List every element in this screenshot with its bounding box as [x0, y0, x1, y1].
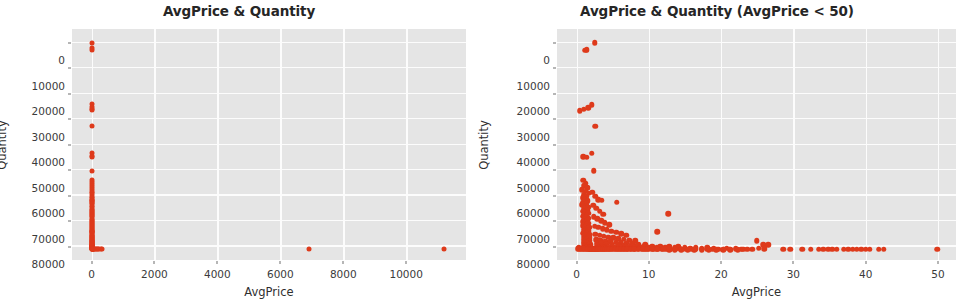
- x-tick-mark: [280, 261, 281, 264]
- scatter-point: [749, 247, 755, 253]
- x-tick-label: 50: [931, 268, 944, 280]
- scatter-point: [679, 247, 685, 253]
- y-tick-label: 70000: [517, 233, 550, 245]
- y-tick-label: 10000: [517, 80, 550, 92]
- scatter-point: [661, 247, 667, 253]
- gridline-vertical: [217, 29, 218, 260]
- scatter-point: [756, 245, 762, 251]
- y-tick-mark: [553, 170, 556, 171]
- scatter-point: [721, 247, 727, 253]
- scatter-point: [699, 247, 705, 253]
- scatter-point: [735, 247, 741, 253]
- y-tick-label: 60000: [32, 207, 65, 219]
- x-tick-label: 8000: [330, 268, 357, 280]
- x-tick-mark: [721, 261, 722, 264]
- scatter-point: [441, 246, 446, 251]
- y-tick-label: 30000: [517, 131, 550, 143]
- gridline-vertical: [938, 29, 939, 260]
- x-tick-label: 30: [787, 268, 800, 280]
- x-tick-mark: [648, 261, 649, 264]
- x-tick-label: 6000: [267, 268, 294, 280]
- gridline-vertical: [649, 29, 650, 260]
- scatter-point: [762, 246, 768, 252]
- scatter-point: [306, 246, 311, 251]
- x-tick-mark: [937, 261, 938, 264]
- gridline-vertical: [154, 29, 155, 260]
- scatter-point: [655, 229, 661, 235]
- y-tick-label: 0: [58, 54, 65, 66]
- x-tick-label: 10: [642, 268, 655, 280]
- y-tick-mark: [68, 93, 71, 94]
- scatter-point: [592, 40, 598, 46]
- gridline-vertical: [793, 29, 794, 260]
- scatter-point: [89, 104, 94, 109]
- scatter-point: [614, 199, 620, 205]
- chart-title-left: AvgPrice & Quantity: [0, 3, 478, 19]
- x-tick-mark: [576, 261, 577, 264]
- x-tick-label: 4000: [204, 268, 231, 280]
- scatter-point: [799, 247, 805, 253]
- scatter-point: [834, 247, 840, 253]
- x-tick-mark: [343, 261, 344, 264]
- scatter-point: [754, 238, 760, 244]
- x-tick-mark: [406, 261, 407, 264]
- y-tick-label: 30000: [32, 131, 65, 143]
- y-tick-label: 50000: [517, 182, 550, 194]
- y-tick-mark: [553, 93, 556, 94]
- x-tick-label: 20: [714, 268, 727, 280]
- scatter-point: [881, 247, 887, 253]
- scatter-point: [685, 247, 691, 253]
- x-tick-mark: [154, 261, 155, 264]
- plot-area-left: [72, 29, 466, 260]
- y-tick-mark: [68, 221, 71, 222]
- chart-title-right: AvgPrice & Quantity (AvgPrice < 50): [478, 3, 956, 19]
- y-tick-label: 50000: [32, 182, 65, 194]
- gridline-vertical: [406, 29, 407, 260]
- scatter-point: [867, 247, 873, 253]
- y-tick-mark: [553, 195, 556, 196]
- y-tick-label: 60000: [517, 207, 550, 219]
- x-tick-mark: [793, 261, 794, 264]
- x-tick-mark: [865, 261, 866, 264]
- y-tick-mark: [68, 68, 71, 69]
- gridline-vertical: [721, 29, 722, 260]
- y-tick-label: 20000: [517, 105, 550, 117]
- plot-background-left: [72, 29, 466, 260]
- plot-background-right: [557, 29, 956, 260]
- gridline-vertical: [280, 29, 281, 260]
- gridline-horizontal: [557, 93, 956, 94]
- y-tick-mark: [68, 119, 71, 120]
- scatter-point: [591, 168, 597, 174]
- scatter-point: [593, 124, 599, 130]
- x-tick-mark: [91, 261, 92, 264]
- y-tick-mark: [553, 221, 556, 222]
- x-axis-label-right: AvgPrice: [557, 285, 956, 299]
- gridline-vertical: [866, 29, 867, 260]
- scatter-point: [672, 247, 678, 253]
- scatter-point: [584, 47, 590, 53]
- scatter-point: [692, 247, 698, 253]
- x-tick-label: 40: [859, 268, 872, 280]
- scatter-point: [788, 247, 794, 253]
- gridline-horizontal: [557, 144, 956, 145]
- gridline-horizontal: [557, 169, 956, 170]
- gridline-horizontal: [557, 67, 956, 68]
- panel-left: AvgPrice & Quantity 01000020000300004000…: [0, 0, 478, 307]
- scatter-point: [655, 247, 661, 253]
- scatter-point: [934, 247, 940, 253]
- gridline-vertical: [577, 29, 578, 260]
- x-tick-label: 2000: [141, 268, 168, 280]
- figure-container: AvgPrice & Quantity 01000020000300004000…: [0, 0, 956, 307]
- y-tick-mark: [553, 144, 556, 145]
- scatter-point: [808, 247, 814, 253]
- scatter-point: [89, 168, 94, 173]
- scatter-point: [666, 211, 672, 217]
- x-tick-label: 10000: [390, 268, 423, 280]
- y-tick-label: 70000: [32, 233, 65, 245]
- x-axis-label-left: AvgPrice: [72, 285, 466, 299]
- y-tick-mark: [68, 246, 71, 247]
- y-tick-mark: [68, 195, 71, 196]
- scatter-point: [601, 212, 607, 218]
- y-tick-label: 0: [543, 54, 550, 66]
- y-tick-label: 40000: [32, 156, 65, 168]
